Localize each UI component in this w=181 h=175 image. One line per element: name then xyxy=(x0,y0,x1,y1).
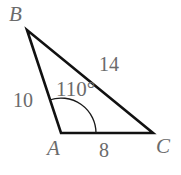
vertex-label-c: C xyxy=(156,136,170,157)
side-length-label-bc: 14 xyxy=(99,54,119,74)
vertex-label-a: A xyxy=(47,138,60,159)
angle-measure-label-a: 110° xyxy=(56,79,95,100)
side-length-label-ac: 8 xyxy=(99,140,109,160)
side-length-label-ab: 10 xyxy=(13,90,33,110)
vertex-label-b: B xyxy=(9,4,22,25)
triangle-figure: B A C 10 14 8 110° xyxy=(0,0,181,175)
